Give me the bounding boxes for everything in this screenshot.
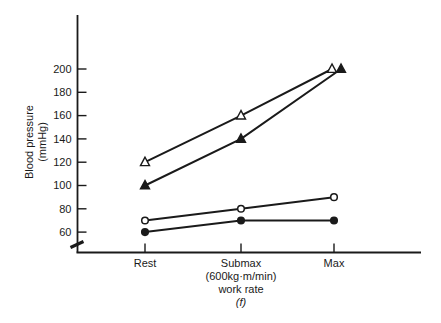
marker-filled-circle xyxy=(331,217,338,224)
y-tick-label: 120 xyxy=(53,156,71,168)
panel-label: (f) xyxy=(236,296,247,308)
x-axis-title: work rate xyxy=(217,283,263,295)
marker-filled-circle xyxy=(142,229,149,236)
y-axis-units: (mmHg) xyxy=(36,122,48,162)
y-tick-label: 140 xyxy=(53,133,71,145)
y-tick-label: 100 xyxy=(53,179,71,191)
series-line-filled-triangle xyxy=(145,69,341,186)
y-tick-label: 80 xyxy=(59,203,71,215)
x-category-label: Submax xyxy=(221,257,262,269)
marker-open-circle xyxy=(331,194,338,201)
marker-open-circle xyxy=(238,206,245,213)
y-tick-label: 180 xyxy=(53,86,71,98)
x-axis-sublabel: (600kg·m/min) xyxy=(206,270,277,282)
marker-filled-circle xyxy=(238,217,245,224)
x-category-label: Rest xyxy=(134,257,157,269)
marker-filled-triangle xyxy=(337,64,346,72)
blood-pressure-line-chart: 2001801601401201008060RestSubmaxMax(600k… xyxy=(0,0,441,323)
x-category-label: Max xyxy=(324,257,345,269)
marker-open-circle xyxy=(142,217,149,224)
marker-open-triangle xyxy=(328,64,337,72)
marker-filled-triangle xyxy=(237,134,246,142)
y-tick-label: 160 xyxy=(53,109,71,121)
y-tick-label: 200 xyxy=(53,63,71,75)
figure-panel: 2001801601401201008060RestSubmaxMax(600k… xyxy=(0,0,441,323)
y-tick-label: 60 xyxy=(59,226,71,238)
y-axis-title: Blood pressure xyxy=(23,105,35,179)
